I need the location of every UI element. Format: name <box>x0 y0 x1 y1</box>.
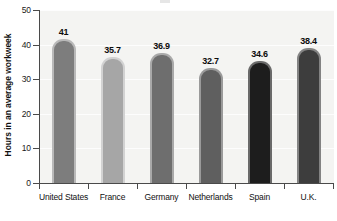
bar <box>201 70 221 183</box>
x-axis-tick <box>284 184 285 189</box>
gridline <box>40 79 334 80</box>
y-axis-tick-label: 20 <box>0 110 31 118</box>
bar-value-label: 32.7 <box>186 56 236 66</box>
y-axis-tick-label: 40 <box>0 41 31 49</box>
bar <box>250 63 270 183</box>
bar-value-label: 38.4 <box>284 36 334 46</box>
bar-value-label: 41 <box>39 27 89 37</box>
x-axis-category-label: Spain <box>235 192 284 202</box>
y-axis-tick-label: 0 <box>0 179 31 187</box>
bar-value-label: 35.7 <box>88 45 138 55</box>
x-axis-tick <box>235 184 236 189</box>
x-axis-category-label: U.K. <box>284 192 333 202</box>
y-axis-tick-label: 50 <box>0 6 31 14</box>
x-axis-tick <box>39 184 40 189</box>
y-axis-title-label: Hours in an average workweek <box>3 34 13 157</box>
x-axis-tick <box>88 184 89 189</box>
y-axis-tick <box>33 79 39 80</box>
gridline <box>40 148 334 149</box>
bar <box>299 50 319 183</box>
x-axis-tick <box>333 184 334 189</box>
y-axis-tick-label: 10 <box>0 144 31 152</box>
gridline <box>40 10 334 11</box>
y-axis-tick <box>33 10 39 11</box>
bar-chart-figure: Hours in an average workweek 01020304050… <box>0 0 337 221</box>
y-axis-tick <box>33 45 39 46</box>
y-axis-tick <box>33 148 39 149</box>
bar <box>152 55 172 183</box>
y-axis-tick-label: 30 <box>0 75 31 83</box>
x-axis-category-label: Germany <box>137 192 186 202</box>
y-axis-title: Hours in an average workweek <box>0 0 16 190</box>
x-axis-tick <box>186 184 187 189</box>
bar <box>103 59 123 183</box>
x-axis-category-label: France <box>88 192 137 202</box>
x-axis-category-label: United States <box>39 192 88 202</box>
x-axis-tick <box>137 184 138 189</box>
bar-value-label: 36.9 <box>137 41 187 51</box>
cropped-title-artifact <box>160 0 170 3</box>
bar <box>54 41 74 183</box>
gridline <box>40 114 334 115</box>
x-axis-category-label: Netherlands <box>186 192 235 202</box>
y-axis-tick <box>33 114 39 115</box>
bar-value-label: 34.6 <box>235 49 285 59</box>
